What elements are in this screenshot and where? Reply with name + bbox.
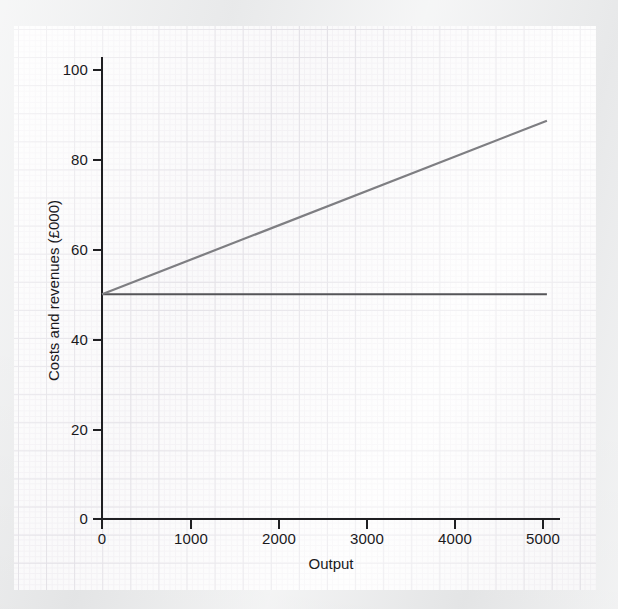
series-line-revenue bbox=[102, 121, 547, 295]
series-layer bbox=[0, 0, 618, 609]
plot-area: 100 80 60 40 20 0 0 1000 2000 3000 4000 … bbox=[0, 0, 618, 609]
chart-screenshot: 100 80 60 40 20 0 0 1000 2000 3000 4000 … bbox=[0, 0, 618, 609]
